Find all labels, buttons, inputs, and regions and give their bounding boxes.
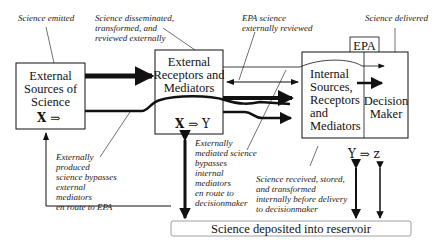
reservoir-label: Science deposited into reservoir [211, 222, 372, 236]
annotation-bypass-external: Externally produced science bypasses ext… [55, 152, 117, 212]
internal-line-4: and [310, 106, 329, 120]
svg-text:internally before delivery: internally before delivery [256, 194, 347, 204]
svg-text:and transformed: and transformed [256, 184, 316, 194]
decision-maker-line-2: Maker [370, 107, 403, 121]
decision-maker-line-1: Decision [364, 94, 409, 108]
leader-science-emitted [46, 27, 54, 63]
svg-text:to decisionmaker: to decisionmaker [256, 204, 318, 214]
epa-formula: Y ⇒ z [347, 147, 380, 161]
leader-bypass-external [100, 112, 130, 157]
external-receptors-line-3: Mediators [164, 81, 215, 95]
internal-line-5: Mediators [310, 119, 361, 133]
svg-text:Science received, stored,: Science received, stored, [256, 174, 345, 184]
svg-text:mediated science: mediated science [195, 148, 257, 158]
svg-text:decisionmaker: decisionmaker [195, 198, 248, 208]
external-receptors-box: External Receptors and Mediators X ⇒ Y [153, 50, 225, 134]
svg-text:Science emitted: Science emitted [18, 13, 75, 23]
svg-text:mediators: mediators [56, 192, 92, 202]
svg-text:externally reviewed: externally reviewed [242, 23, 313, 33]
leader-disseminated [163, 28, 195, 50]
svg-text:science bypasses: science bypasses [56, 172, 117, 182]
internal-line-3: Receptors [310, 93, 360, 107]
science-flow-diagram: External Sources of Science X ⇒ External… [0, 0, 441, 250]
svg-text:Externally: Externally [55, 152, 94, 162]
svg-text:EPA science: EPA science [241, 13, 286, 23]
svg-text:internal: internal [195, 168, 224, 178]
external-sources-line-1: External [29, 69, 72, 83]
svg-text:external: external [56, 182, 86, 192]
reservoir-box: Science deposited into reservoir [171, 221, 411, 236]
svg-text:en route to: en route to [195, 188, 234, 198]
decision-maker-text: Decision Maker [364, 94, 409, 121]
annotation-received-internal: Science received, stored, and transforme… [256, 174, 347, 214]
svg-text:en route to EPA: en route to EPA [56, 202, 113, 212]
internal-line-2: Sources, [310, 80, 353, 94]
svg-text:bypasses: bypasses [195, 158, 227, 168]
epa-label-box: EPA [350, 37, 379, 54]
arrow-external-to-internal-lower [223, 112, 291, 118]
external-receptors-line-1: External [168, 55, 211, 69]
svg-text:Science delivered: Science delivered [365, 13, 428, 23]
leader-epa-reviewed [239, 32, 255, 80]
svg-text:produced: produced [55, 162, 90, 172]
external-receptors-line-2: Receptors and [153, 68, 225, 82]
svg-text:reviewed externally: reviewed externally [95, 33, 165, 43]
svg-text:Externally: Externally [194, 138, 233, 148]
svg-text:Science disseminated,: Science disseminated, [95, 13, 174, 23]
annotation-disseminated: Science disseminated, transformed, and r… [95, 13, 174, 43]
internal-line-1: Internal [310, 67, 349, 81]
annotation-science-emitted: Science emitted [18, 13, 75, 23]
external-receptors-formula: X ⇒ Y [175, 117, 211, 131]
external-sources-box: External Sources of Science X ⇒ [16, 63, 85, 129]
epa-label: EPA [353, 39, 375, 53]
annotation-bypass-internal: Externally mediated science bypasses int… [194, 138, 257, 208]
svg-text:transformed, and: transformed, and [95, 23, 158, 33]
external-sources-formula: X ⇒ [37, 111, 60, 125]
external-sources-line-3: Science [31, 95, 70, 109]
leader-received-internal [310, 146, 318, 166]
annotation-science-delivered: Science delivered [365, 13, 428, 23]
external-sources-line-2: Sources of [24, 82, 78, 96]
annotation-epa-reviewed: EPA science externally reviewed [241, 13, 313, 33]
svg-text:mediators: mediators [195, 178, 231, 188]
